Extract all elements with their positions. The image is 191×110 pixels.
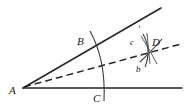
label-arc-b: b (136, 64, 141, 74)
label-point-d: D (151, 36, 160, 48)
geometry-canvas: A B C D b c (0, 0, 191, 110)
label-arc-c: c (130, 37, 134, 47)
label-point-c: C (93, 92, 101, 104)
label-point-b: B (77, 35, 84, 47)
label-vertex-a: A (8, 84, 16, 96)
ray-tick-mark (139, 25, 140, 28)
geometry-figure: A B C D b c (0, 0, 191, 110)
arc-tick-lower-right (150, 51, 157, 64)
upper-ray-line (23, 8, 161, 88)
